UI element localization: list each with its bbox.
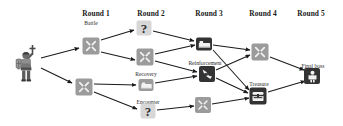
node-r2-battle[interactable] [137,49,154,66]
crossed-swords-icon [254,46,267,59]
node-r3-recovery[interactable] [196,38,212,51]
edge-r4battle-to-final-boss [270,57,304,70]
node-r2-recovery[interactable] [139,79,154,91]
edge-r2recovery-to-r3-reinforcement [155,76,197,83]
node-r4-battle[interactable] [252,44,269,61]
edge-hero-to-r1-battle-top [41,48,79,58]
edge-r3reinf-to-r4-treasure [216,78,248,93]
diagram-canvas: Round 1 Round 2 Round 3 Round 4 Round 5 [0,0,343,126]
node-r1-battle-top[interactable] [83,38,100,55]
round-header-4: Round 4 [249,9,277,18]
node-r3-reinforcement[interactable] [199,66,215,82]
edge-r1bot-to-r2-question-bottom [94,92,137,109]
reinforcement-icon [201,68,214,81]
round-header-5: Round 5 [297,9,325,18]
edge-r3battle-to-r4-treasure [212,98,249,104]
node-r5-final-boss[interactable] [304,68,320,84]
crossed-swords-icon [85,40,98,53]
edge-hero-to-r1-battle-bottom [41,68,72,83]
round-header-3: Round 3 [195,9,223,18]
question-mark-icon: ? [141,22,148,35]
edge-r4treasure-to-final-boss [268,81,305,92]
crossed-swords-icon [197,99,209,111]
node-label-battle: Battle [84,20,97,26]
node-r2-question-bottom[interactable]: ? [141,104,156,119]
bed-icon [140,81,152,90]
question-mark-icon: ? [145,105,152,118]
treasure-chest-icon [252,90,265,102]
round-header-1: Round 1 [82,9,110,18]
node-r4-treasure[interactable] [250,88,267,105]
edge-r3recovery-to-r4-treasure [213,50,249,90]
knight-character [12,42,42,84]
node-r1-battle-bottom[interactable] [76,79,93,96]
round-header-2: Round 2 [137,9,165,18]
edge-r1top-to-r2-battle [101,52,135,60]
crossed-swords-icon [139,51,152,64]
edge-r1bot-to-r2-recovery [94,84,136,85]
edge-r1top-to-r2-question-top [101,30,134,40]
edge-r3recovery-to-r4-battle [213,45,250,50]
bed-icon [198,39,211,49]
final-boss-icon [307,70,318,83]
edge-r2qbot-to-r3-battle [157,106,194,110]
crossed-swords-icon [78,81,91,94]
node-r3-battle[interactable] [195,97,211,113]
edge-r2qtop-to-r3-recovery [153,31,194,41]
node-r2-question-top[interactable]: ? [137,21,152,36]
knight-icon [12,42,42,84]
edge-layer [0,0,343,126]
node-label-treasure: Treasure [249,81,268,87]
node-label-recovery: Recovery [135,71,156,77]
edge-r2battle-to-r3-recovery [155,45,195,54]
